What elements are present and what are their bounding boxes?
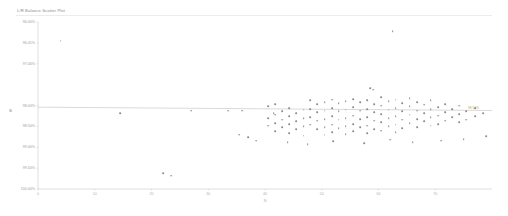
plot-area: 96.00%96.41%97.00%98.00%98.50%99.00%99.5…	[0, 0, 508, 216]
data-point	[274, 122, 276, 124]
data-point	[395, 99, 397, 101]
data-point	[274, 131, 276, 133]
data-point	[380, 130, 382, 132]
data-point	[338, 111, 340, 113]
data-point	[119, 112, 121, 114]
x-axis-tick-label: 60	[377, 192, 381, 196]
data-point	[458, 105, 460, 107]
data-point	[373, 111, 375, 113]
data-point	[437, 115, 439, 117]
data-point	[388, 109, 390, 111]
data-point	[281, 111, 283, 113]
data-point	[295, 121, 297, 123]
data-point	[281, 119, 283, 121]
data-point	[345, 109, 347, 111]
data-point	[372, 89, 374, 91]
data-point	[303, 126, 305, 128]
data-point	[316, 111, 318, 113]
data-point	[171, 175, 173, 177]
data-point	[430, 116, 432, 118]
data-point	[395, 124, 397, 126]
data-point	[295, 112, 297, 114]
data-point	[288, 107, 290, 109]
data-point	[409, 122, 411, 124]
y-axis-tick-label: 96.00%	[8, 20, 35, 24]
data-point	[345, 133, 347, 135]
data-point	[366, 108, 368, 110]
data-point	[458, 113, 460, 115]
data-point	[331, 99, 333, 101]
data-point	[483, 112, 485, 114]
data-point	[281, 126, 283, 128]
data-point	[295, 128, 297, 130]
y-axis-tick-label: 99.50%	[8, 166, 35, 170]
data-point	[458, 121, 460, 123]
data-point	[247, 136, 249, 138]
data-point	[274, 114, 276, 116]
data-point	[352, 123, 354, 125]
data-point	[412, 141, 414, 143]
data-point	[332, 141, 334, 143]
data-point	[338, 119, 340, 121]
y-axis-tick-label: 100.00%	[8, 187, 35, 191]
data-point	[267, 117, 269, 119]
data-point	[395, 116, 397, 118]
data-point	[310, 108, 312, 110]
data-point	[359, 101, 361, 103]
data-point	[466, 111, 468, 113]
data-point	[451, 116, 453, 118]
data-point	[373, 120, 375, 122]
data-point	[267, 125, 269, 127]
data-point	[303, 135, 305, 137]
data-point	[388, 126, 390, 128]
data-point	[162, 172, 164, 174]
data-point	[359, 110, 361, 112]
data-point	[352, 98, 354, 100]
data-point	[310, 124, 312, 126]
data-point	[423, 112, 425, 114]
data-point	[401, 111, 403, 113]
data-point	[256, 140, 258, 142]
y-axis-title: S	[9, 108, 12, 113]
data-point	[392, 30, 394, 32]
data-point	[366, 132, 368, 134]
data-point	[463, 138, 465, 140]
x-axis-tick-label: 50	[320, 192, 324, 196]
data-point	[331, 116, 333, 118]
data-point	[345, 117, 347, 119]
data-point	[307, 143, 309, 145]
data-point	[416, 101, 418, 103]
data-point	[241, 110, 243, 112]
data-point	[331, 124, 333, 126]
data-point	[395, 131, 397, 133]
x-axis-tick-label: 70	[433, 192, 437, 196]
data-point	[366, 100, 368, 102]
data-point	[331, 131, 333, 133]
data-point	[324, 134, 326, 136]
data-point	[466, 119, 468, 121]
data-point	[267, 105, 269, 107]
data-point	[409, 114, 411, 116]
data-point	[316, 120, 318, 122]
data-point	[331, 107, 333, 109]
data-point	[401, 102, 403, 104]
y-axis-tick-label: 99.00%	[8, 145, 35, 149]
data-point	[440, 140, 442, 142]
data-point	[288, 123, 290, 125]
data-point	[310, 100, 312, 102]
trend-line	[38, 107, 492, 110]
data-point	[409, 105, 411, 107]
y-axis-tick-label: 98.00%	[8, 104, 35, 108]
data-point	[345, 126, 347, 128]
data-point	[430, 108, 432, 110]
data-point	[366, 125, 368, 127]
data-point	[380, 113, 382, 115]
data-point	[352, 106, 354, 108]
data-point	[310, 116, 312, 118]
data-point	[366, 116, 368, 118]
data-point	[380, 121, 382, 123]
data-point	[369, 87, 371, 89]
data-point	[474, 107, 476, 109]
scatter-plot-screenshot: L/R Balance Scatter Plot 96.00%96.41%97.…	[0, 0, 508, 216]
data-point	[380, 96, 382, 98]
